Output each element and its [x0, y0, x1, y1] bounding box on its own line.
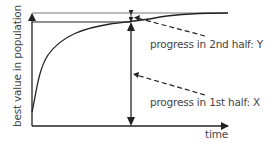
annotation-progress-x: progress in 1st half: X	[150, 96, 260, 108]
leader-line-y	[137, 18, 205, 36]
diagram-canvas	[0, 0, 277, 152]
annotation-progress-y: progress in 2nd half: Y	[150, 38, 263, 50]
x-axis-label: time	[205, 128, 228, 140]
leader-line-x	[136, 75, 205, 95]
y-axis-label: best value in population	[11, 5, 23, 127]
